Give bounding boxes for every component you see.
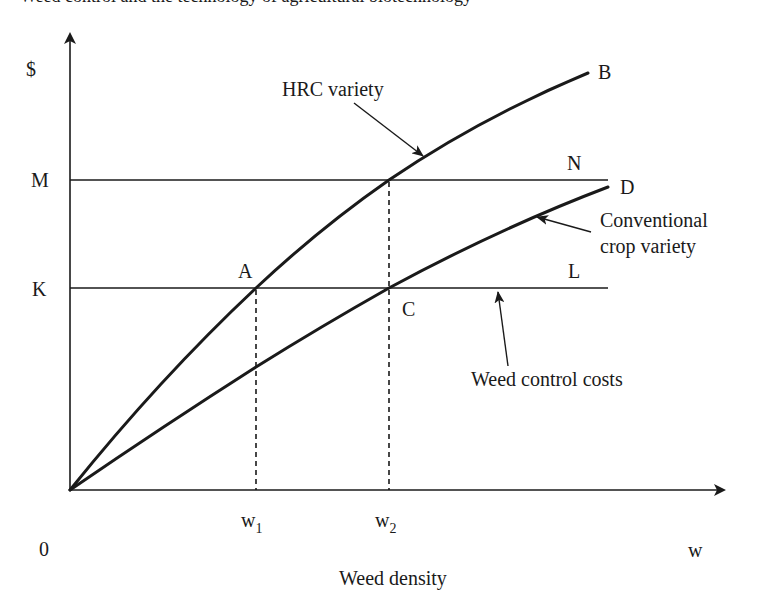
tick-label-w2: w2 [375,509,396,536]
conventional-variety-curve [70,187,608,490]
axes: $ 0 w Weed density [26,34,724,590]
tick-label-w1: w1 [241,509,262,536]
weed-control-costs-annotation: Weed control costs [471,368,623,390]
x-axis-label: w [688,539,703,561]
point-c-label: C [402,298,415,320]
tick-label-m: M [31,169,49,191]
weed-density-diagram: Weed control and the technology of agric… [0,0,759,591]
l-label: L [568,260,580,282]
diagram-canvas: Weed control and the technology of agric… [0,0,759,591]
hrc-variety-curve [70,73,588,490]
y-axis-label: $ [26,58,36,80]
origin-label: 0 [39,538,49,560]
x-axis-title: Weed density [339,567,447,590]
conventional-pointer-arrow [537,217,591,232]
conventional-annotation-line2: crop variety [600,235,696,258]
hrc-variety-annotation: HRC variety [282,78,384,101]
x-tick-labels: w1 w2 [241,509,396,536]
d-label: D [620,176,634,198]
tick-label-k: K [32,278,47,300]
y-tick-labels: M K [31,169,49,300]
cropped-header: Weed control and the technology of agric… [20,0,472,6]
curves: B D [70,61,634,490]
hrc-pointer-arrow [354,103,423,156]
n-label: N [567,152,581,174]
point-a-label: A [238,260,253,282]
weed-control-pointer-arrow [498,292,508,366]
conventional-annotation-line1: Conventional [600,209,708,231]
b-label: B [598,61,611,83]
header-text: Weed control and the technology of agric… [20,0,472,6]
